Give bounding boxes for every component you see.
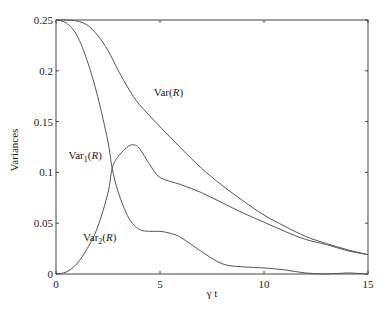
chart: 05101500.050.10.150.20.25Var(R)Var1(R)Va… [0, 0, 390, 313]
x-tick-label: 5 [157, 278, 163, 290]
annotation-label: Var(R) [154, 86, 184, 99]
y-tick-label: 0 [48, 268, 54, 280]
series-line-varr [56, 20, 368, 255]
y-tick-label: 0.2 [39, 65, 53, 77]
y-tick-label: 0.05 [34, 217, 54, 229]
x-tick-label: 0 [53, 278, 59, 290]
plot-area: 05101500.050.10.150.20.25Var(R)Var1(R)Va… [34, 14, 374, 290]
y-tick-label: 0.25 [34, 14, 54, 26]
x-tick-label: 15 [363, 278, 375, 290]
y-axis-label: Variances [8, 129, 20, 172]
annotation-label: Var1(R) [68, 149, 102, 164]
x-axis-label: γ t [206, 287, 218, 299]
y-tick-label: 0.15 [34, 116, 54, 128]
y-tick-label: 0.1 [39, 166, 53, 178]
annotation-label: Var2(R) [83, 231, 117, 246]
series-line-var2r [56, 145, 368, 274]
x-tick-label: 10 [259, 278, 271, 290]
